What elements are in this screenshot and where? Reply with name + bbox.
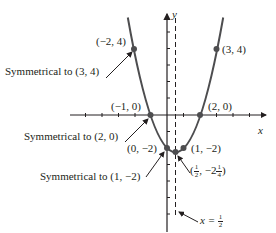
axis-of-symmetry-label: x = 12 <box>200 214 223 229</box>
annotation-symmetrical-1-neg2: Symmetrical to (1, −2) <box>40 170 140 182</box>
annotation-symmetrical-2-0: Symmetrical to (2, 0) <box>24 130 118 142</box>
vertex-mid: , −2 <box>199 164 216 176</box>
fraction-half: 12 <box>218 214 224 229</box>
point-label-3-4: (3, 4) <box>222 43 246 55</box>
annotation-symmetrical-3-4: Symmetrical to (3, 4) <box>5 65 99 77</box>
point-label-1-neg2: (1, −2) <box>191 142 221 154</box>
axis-eq-text: x = <box>200 214 218 226</box>
fraction-denominator: 2 <box>218 222 224 229</box>
annotation-arrows <box>106 52 198 222</box>
vertex-close: ) <box>222 164 226 176</box>
point-label-neg1-0: (−1, 0) <box>111 100 141 112</box>
point-label-neg2-4: (−2, 4) <box>96 35 126 47</box>
x-axis-label: x <box>258 124 263 136</box>
point-label-0-neg2: (0, −2) <box>127 142 157 154</box>
point-label-2-0: (2, 0) <box>208 100 232 112</box>
y-axis-label: y <box>172 8 177 20</box>
vertex-label: (12, −214) <box>190 164 226 179</box>
parabola-graph <box>0 0 276 233</box>
